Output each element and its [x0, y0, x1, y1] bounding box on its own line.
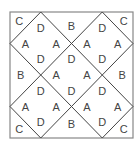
- region-label-a: A: [83, 101, 91, 113]
- region-label-b: B: [17, 69, 24, 81]
- region-label-a: A: [114, 38, 122, 50]
- region-label-a: A: [52, 101, 60, 113]
- region-label-a: A: [114, 101, 122, 113]
- region-label-d: D: [98, 85, 106, 97]
- region-label-d: D: [68, 85, 76, 97]
- region-label-a: A: [22, 38, 30, 50]
- region-label-c: C: [15, 15, 23, 27]
- region-label-d: D: [68, 53, 76, 65]
- region-label-c: C: [120, 123, 128, 135]
- region-label-d: D: [37, 85, 45, 97]
- region-label-b: B: [68, 20, 75, 32]
- diagonal-line: [10, 12, 102, 107]
- region-label-d: D: [37, 22, 45, 34]
- region-label-d: D: [98, 22, 106, 34]
- region-label-a: A: [83, 38, 91, 50]
- diagram: CDBDCAAAADDDBAABDDDAAAACDBDC: [0, 0, 137, 146]
- region-label-a: A: [52, 38, 60, 50]
- region-label-b: B: [68, 118, 75, 130]
- region-label-c: C: [120, 15, 128, 27]
- region-label-a: A: [22, 101, 30, 113]
- region-label-d: D: [37, 116, 45, 128]
- region-labels: CDBDCAAAADDDBAABDDDAAAACDBDC: [15, 15, 128, 134]
- region-label-a: A: [52, 69, 60, 81]
- region-label-d: D: [98, 116, 106, 128]
- region-label-c: C: [15, 123, 23, 135]
- region-label-d: D: [37, 53, 45, 65]
- region-label-a: A: [83, 69, 91, 81]
- region-label-d: D: [98, 53, 106, 65]
- diagonal-line: [10, 44, 102, 139]
- region-label-b: B: [119, 69, 126, 81]
